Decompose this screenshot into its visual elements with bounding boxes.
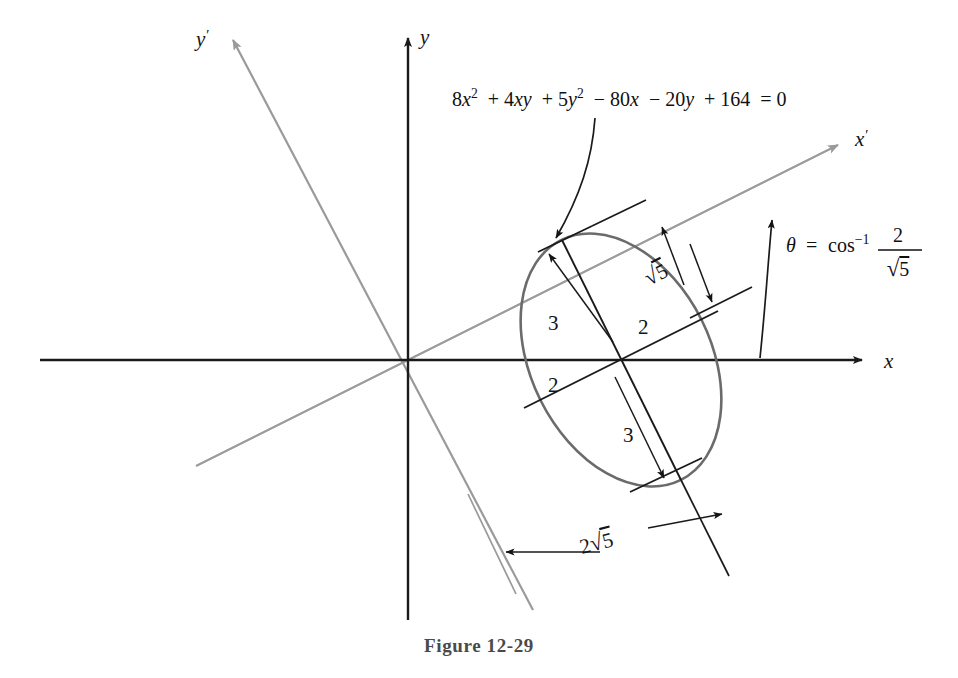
semi-minor-left-label: 2: [548, 373, 559, 397]
perp-offset-label: √5: [640, 258, 672, 291]
equation-leader-arrow: [556, 118, 595, 238]
analytic-geometry-figure: x y x′ y′ 3: [0, 0, 958, 678]
primed-axes-group: [196, 40, 838, 610]
figure-container: x y x′ y′ 3: [0, 0, 958, 678]
theta-arc: [760, 220, 772, 358]
perp-offset-upper-tick: [592, 200, 646, 226]
x-prime-axis-line: [196, 145, 838, 466]
along-offset-label: 2√5: [577, 527, 616, 559]
y-prime-axis-line: [233, 40, 533, 610]
perp-offset-arrow-down: [690, 244, 712, 302]
semi-minor-right-label: 2: [638, 315, 649, 339]
theta-equation-group: θ = cos−1 2 √5: [786, 224, 922, 281]
perp-offset-dimension-group: √5: [592, 200, 752, 318]
semi-major-upper-arrow: [549, 254, 613, 342]
semi-major-lower-label: 3: [623, 423, 634, 447]
theta-arc-group: [760, 220, 772, 358]
theta-cos-function: cos−1: [828, 232, 870, 256]
y-prime-axis-label: y′: [194, 27, 209, 51]
theta-equals-sign: =: [806, 234, 817, 256]
x-axis-label: x: [883, 349, 894, 373]
primary-axes-group: [40, 38, 862, 620]
theta-symbol: θ: [786, 234, 796, 256]
along-offset-dimension-group: 2√5: [468, 480, 729, 594]
y-axis-label: y: [418, 25, 430, 49]
along-offset-right-tick: [681, 480, 729, 576]
figure-caption: Figure 12-29: [424, 635, 534, 656]
conic-equation-group: 8x2 + 4xy + 5y2 − 80x − 20y + 164 = 0: [452, 86, 787, 238]
conic-equation: 8x2 + 4xy + 5y2 − 80x − 20y + 164 = 0: [452, 86, 787, 111]
along-offset-arrow-right: [648, 514, 722, 528]
theta-fraction-denominator: √5: [887, 256, 910, 281]
along-offset-left-tick: [468, 494, 516, 594]
perp-offset-lower-tick: [690, 287, 752, 318]
semi-major-upper-label: 3: [548, 311, 559, 335]
theta-fraction-numerator: 2: [893, 224, 903, 246]
x-prime-axis-label: x′: [854, 127, 868, 151]
